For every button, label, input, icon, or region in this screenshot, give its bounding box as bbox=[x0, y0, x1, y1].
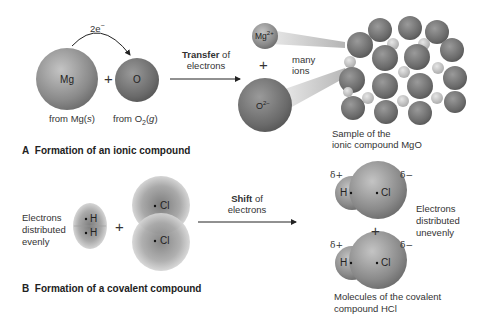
plus-sign-ions: + bbox=[259, 56, 268, 73]
hcl-h-symbol-bottom: H bbox=[340, 257, 347, 268]
cl2-molecule bbox=[132, 176, 190, 271]
from-o2-label: from O2(g) bbox=[113, 113, 158, 128]
hcl-cl-symbol-bottom: Cl bbox=[381, 257, 390, 268]
delta-minus-bottom: δ− bbox=[400, 240, 413, 250]
transfer-label: Transfer of electrons bbox=[173, 49, 239, 71]
mg-ion-label: Mg2+ bbox=[255, 30, 274, 41]
h-symbol-2: H bbox=[90, 227, 97, 238]
delta-plus-top: δ+ bbox=[330, 170, 343, 180]
panel-a-caption: A Formation of an ionic compound bbox=[22, 145, 190, 156]
h2-molecule bbox=[73, 203, 107, 249]
h-symbol-1: H bbox=[90, 213, 97, 224]
electron-transfer-arrow bbox=[0, 0, 485, 329]
from-mg-label: from Mg(s) bbox=[49, 113, 95, 124]
delta-plus-bottom: δ+ bbox=[330, 240, 343, 250]
cl-symbol-2: Cl bbox=[160, 235, 169, 246]
plus-sign-hcl: + bbox=[371, 222, 380, 239]
panel-b-caption: B Formation of a covalent compound bbox=[22, 283, 201, 294]
many-ions-label: manyions bbox=[292, 54, 315, 76]
delta-minus-top: δ− bbox=[400, 170, 413, 180]
shift-label: Shift of electrons bbox=[214, 193, 280, 215]
electrons-even-label: Electronsdistributedevenly bbox=[22, 212, 66, 248]
plus-sign-b: + bbox=[115, 218, 124, 235]
cl-symbol-1: Cl bbox=[160, 200, 169, 211]
electron-count-label: 2e− bbox=[90, 20, 105, 34]
mg-symbol: Mg bbox=[55, 74, 79, 85]
mgo-crystal bbox=[339, 16, 467, 125]
hcl-molecules-caption: Molecules of the covalentcompound HCl bbox=[334, 291, 441, 315]
hcl-cl-symbol-top: Cl bbox=[381, 187, 390, 198]
plus-sign-a: + bbox=[104, 70, 113, 87]
electrons-uneven-label: Electronsdistributedunevenly bbox=[416, 203, 460, 239]
o-ion-label: O2− bbox=[256, 100, 270, 111]
o-symbol: O bbox=[131, 74, 143, 85]
mgo-sample-caption: Sample of theionic compound MgO bbox=[332, 128, 422, 150]
hcl-h-symbol-top: H bbox=[340, 187, 347, 198]
